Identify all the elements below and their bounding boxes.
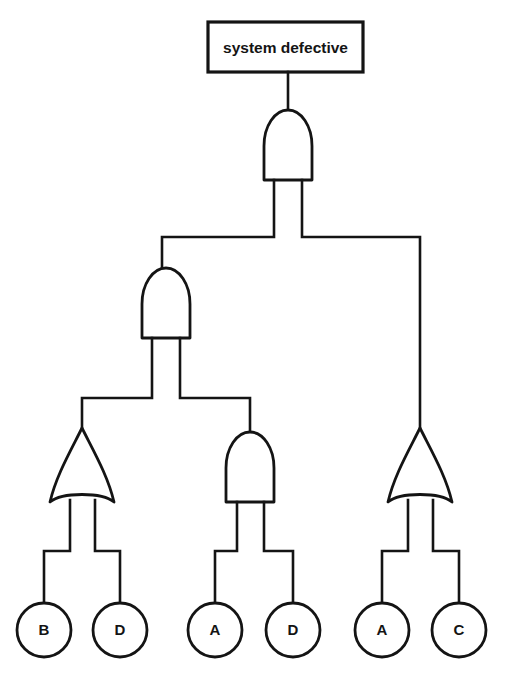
and-gate-icon [226, 432, 274, 502]
basic-event-node[interactable]: D [93, 603, 147, 657]
basic-event-node[interactable]: B [17, 603, 71, 657]
connector-or-right-leg-left [382, 500, 408, 603]
connector-gate-top-leg-right [302, 180, 420, 428]
connector-and-mid-leg-right [264, 502, 293, 603]
connector-or-left-leg-left [44, 500, 70, 603]
gate-and-mid-and-gate[interactable] [226, 432, 274, 502]
gate-top-and-gate[interactable] [264, 110, 312, 180]
or-gate-icon [388, 428, 452, 502]
fault-tree-canvas: system defective [0, 0, 512, 681]
top-event-node[interactable]: system defective [208, 22, 363, 72]
connector-gate-mid-left-leg-right [180, 338, 250, 432]
connector-gate-top-leg-left [162, 180, 274, 268]
connector-gate-mid-left-leg-left [82, 338, 152, 428]
basic-event-label: D [288, 621, 299, 638]
basic-event-label: B [39, 621, 50, 638]
basic-event-label: C [454, 621, 465, 638]
basic-event-node[interactable]: C [432, 603, 486, 657]
basic-event-node[interactable]: A [355, 603, 409, 657]
and-gate-icon [142, 268, 190, 338]
and-gate-icon [264, 110, 312, 180]
gate-mid-left-and-gate[interactable] [142, 268, 190, 338]
gate-or-left-or-gate[interactable] [50, 428, 114, 502]
fault-tree-diagram: system defective [0, 0, 512, 681]
connector-and-mid-leg-left [215, 502, 237, 603]
basic-event-node[interactable]: D [266, 603, 320, 657]
basic-event-label: D [115, 621, 126, 638]
connector-or-right-leg-right [433, 500, 459, 603]
basic-event-label: A [210, 621, 221, 638]
basic-event-node[interactable]: A [188, 603, 242, 657]
top-event-label: system defective [223, 39, 348, 56]
connector-or-left-leg-right [95, 500, 120, 603]
basic-event-label: A [377, 621, 388, 638]
gate-or-right-or-gate[interactable] [388, 428, 452, 502]
or-gate-icon [50, 428, 114, 502]
